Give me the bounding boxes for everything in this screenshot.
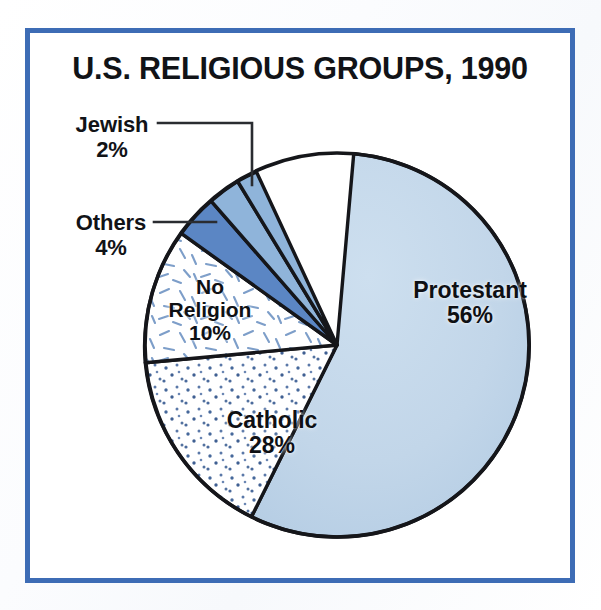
pie-label-protestant-percent: 56% [380,303,560,328]
pie-chart: Jewish 2% Others 4% Protestant 56% Catho… [30,33,580,588]
chart-frame: U.S. RELIGIOUS GROUPS, 1990 [25,28,575,583]
pie-label-catholic: Catholic 28% [182,408,362,459]
leader-line-jewish [158,123,252,185]
pie-label-protestant: Protestant 56% [380,278,560,329]
pie-label-no-religion: No Religion 10% [145,275,275,344]
pie-label-protestant-name: Protestant [380,278,560,303]
pie-label-no-religion-percent: 10% [145,321,275,344]
pie-label-jewish-name: Jewish [56,113,168,138]
pie-label-catholic-name: Catholic [182,408,362,433]
pie-label-no-religion-name-line2: Religion [145,298,275,321]
pie-label-others: Others 4% [52,211,170,260]
pie-label-others-percent: 4% [52,236,170,261]
pie-label-catholic-percent: 28% [182,433,362,458]
pie-label-others-name: Others [52,211,170,236]
pie-label-jewish: Jewish 2% [56,113,168,162]
pie-label-jewish-percent: 2% [56,138,168,163]
pie-label-no-religion-name-line1: No [145,275,275,298]
